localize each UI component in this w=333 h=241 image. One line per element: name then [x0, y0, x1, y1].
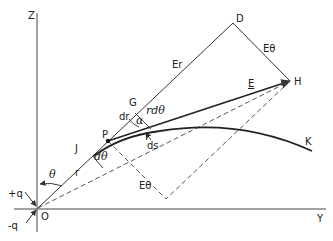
- y-axis-label: Y: [316, 213, 324, 224]
- point-p-label: P: [102, 129, 108, 140]
- plus-q-label: +q: [8, 188, 23, 199]
- point-j-label: J: [74, 143, 78, 154]
- dipole-field-diagram: Z Y O +q -q D H G P F J K θ r dθ dr rdθ …: [0, 0, 333, 241]
- ds-label: ds: [147, 140, 159, 151]
- e-vector: [108, 81, 290, 141]
- e-vector-label: E: [248, 78, 254, 89]
- point-g-label: G: [129, 97, 137, 108]
- r-d-theta-label: rdθ: [146, 104, 165, 117]
- d-theta-label: dθ: [94, 150, 108, 163]
- e-theta-line: [233, 23, 290, 81]
- origin-label: O: [41, 211, 49, 222]
- alpha-label: α: [136, 114, 144, 127]
- point-k-label: K: [305, 136, 312, 147]
- point-d-label: D: [236, 13, 244, 24]
- theta-label: θ: [49, 168, 56, 181]
- e-theta-top-label: Eθ: [263, 43, 275, 54]
- point-h-label: H: [294, 76, 302, 87]
- plus-q-arrow: [25, 192, 36, 206]
- z-axis-label: Z: [28, 10, 35, 21]
- minus-q-label: -q: [8, 220, 18, 231]
- minus-q-arrow: [26, 210, 36, 223]
- dr-label: dr: [119, 111, 130, 122]
- e-r-label: Er: [172, 59, 183, 70]
- e-theta-bottom-label: Eθ: [139, 180, 151, 191]
- field-line-curve: [94, 127, 312, 156]
- theta-arc: [40, 183, 62, 186]
